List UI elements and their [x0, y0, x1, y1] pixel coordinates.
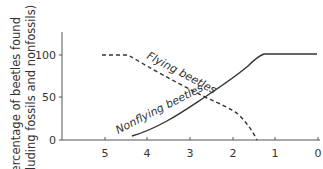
x-tick-5: 5 [102, 147, 109, 160]
y-tick-0: 0 [49, 134, 56, 147]
x-tick-3: 3 [187, 147, 194, 160]
nonflying-beetles-label: Nonflying beetles [113, 81, 205, 136]
y-tick-50: 50 [42, 91, 56, 104]
y-ticks: 0 50 100 [35, 49, 62, 147]
x-tick-1: 1 [272, 147, 279, 160]
y-tick-100: 100 [35, 49, 56, 62]
x-tick-2: 2 [230, 147, 237, 160]
y-axis-label-line2: (including fossils and nonfossils) [24, 5, 38, 169]
y-axis-label: Percentage of beetles found [9, 17, 23, 169]
x-tick-0: 0 [315, 147, 322, 160]
beetle-percentage-chart: Percentage of beetles found (including f… [0, 0, 323, 169]
x-tick-4: 4 [144, 147, 151, 160]
